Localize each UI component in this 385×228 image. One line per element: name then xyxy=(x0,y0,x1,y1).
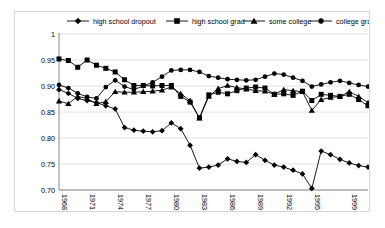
marker-triangle xyxy=(224,82,230,87)
legend: high school dropouthigh school gradsome … xyxy=(67,17,369,26)
marker-circle xyxy=(150,80,155,85)
marker-circle xyxy=(85,95,90,100)
marker-diamond xyxy=(178,126,184,132)
x-tick-label: 1977 xyxy=(144,194,153,210)
marker-square xyxy=(122,77,127,82)
series-high-school-grad xyxy=(57,56,370,120)
marker-circle xyxy=(197,70,202,75)
marker-circle xyxy=(141,84,146,89)
marker-diamond xyxy=(225,156,231,162)
marker-circle xyxy=(57,83,62,88)
marker-circle xyxy=(253,77,258,82)
marker-circle xyxy=(206,74,211,79)
marker-circle xyxy=(263,74,268,79)
marker-square xyxy=(174,18,180,24)
marker-circle xyxy=(178,68,183,73)
marker-circle xyxy=(75,91,80,96)
x-tick-label: 1992 xyxy=(285,194,294,210)
marker-square xyxy=(319,92,324,97)
legend-label: high school grad xyxy=(192,17,245,26)
y-tick-label: 1 xyxy=(51,30,55,39)
marker-circle xyxy=(94,96,99,101)
chart-container: high school dropouthigh school gradsome … xyxy=(14,11,370,212)
series-layer xyxy=(56,56,369,191)
marker-square xyxy=(85,58,90,63)
marker-circle xyxy=(318,18,323,23)
marker-diamond xyxy=(271,162,277,168)
marker-circle xyxy=(319,82,324,87)
marker-diamond xyxy=(187,142,193,148)
marker-circle xyxy=(132,87,137,92)
marker-diamond xyxy=(131,127,137,133)
marker-circle xyxy=(122,84,127,89)
y-tick-label: 0.90 xyxy=(41,82,55,91)
marker-square xyxy=(57,56,62,61)
marker-circle xyxy=(216,75,221,80)
grid-layer xyxy=(59,34,368,190)
x-tick-label: 1980 xyxy=(172,194,181,210)
marker-square xyxy=(291,93,296,98)
marker-triangle xyxy=(56,98,62,103)
marker-circle xyxy=(160,74,165,79)
marker-diamond xyxy=(365,164,369,170)
marker-square xyxy=(131,83,136,88)
marker-diamond xyxy=(318,148,324,154)
marker-square xyxy=(103,66,108,71)
marker-diamond xyxy=(346,160,352,166)
marker-diamond xyxy=(56,87,62,93)
marker-circle xyxy=(328,80,333,85)
marker-circle xyxy=(356,83,361,88)
marker-circle xyxy=(244,78,249,83)
marker-diamond xyxy=(206,164,212,170)
marker-diamond xyxy=(140,128,146,134)
marker-square xyxy=(113,69,118,74)
marker-circle xyxy=(338,78,343,83)
marker-diamond xyxy=(112,106,118,112)
marker-diamond xyxy=(281,164,287,170)
marker-circle xyxy=(235,77,240,82)
marker-diamond xyxy=(122,125,128,131)
marker-circle xyxy=(309,84,314,89)
legend-item-college-grad: college grad xyxy=(310,17,369,26)
marker-square xyxy=(309,98,314,103)
marker-diamond xyxy=(300,171,306,177)
marker-square xyxy=(281,91,286,96)
marker-diamond xyxy=(337,156,343,162)
x-tick-labels: 1968197119741977198019831986198919921995… xyxy=(60,194,359,210)
marker-diamond xyxy=(215,162,221,168)
marker-square xyxy=(225,91,230,96)
marker-circle xyxy=(347,81,352,86)
marker-circle xyxy=(103,85,108,90)
x-tick-label: 1974 xyxy=(116,194,125,210)
legend-label: college grad xyxy=(336,17,369,26)
marker-circle xyxy=(169,68,174,73)
x-tick-label: 1968 xyxy=(60,194,69,210)
y-tick-label: 0.75 xyxy=(41,160,55,169)
marker-circle xyxy=(188,68,193,73)
marker-circle xyxy=(366,84,369,89)
marker-circle xyxy=(66,86,71,91)
marker-triangle xyxy=(346,89,352,94)
x-tick-label: 1989 xyxy=(256,194,265,210)
marker-circle xyxy=(272,71,277,76)
x-tick-label: 1995 xyxy=(313,194,322,210)
legend-label: high school dropout xyxy=(93,17,156,26)
series-some-college xyxy=(56,82,369,120)
legend-item-high-school-dropout: high school dropout xyxy=(67,17,156,26)
marker-diamond xyxy=(65,90,71,96)
marker-circle xyxy=(300,78,305,83)
marker-diamond xyxy=(290,167,296,173)
marker-diamond xyxy=(234,159,240,165)
legend-item-some-college: some college xyxy=(243,17,311,26)
marker-circle xyxy=(225,77,230,82)
y-tick-label: 0.95 xyxy=(41,56,55,65)
marker-triangle xyxy=(356,93,362,98)
y-tick-label: 0.70 xyxy=(41,186,55,195)
legend-item-high-school-grad: high school grad xyxy=(166,17,245,26)
marker-circle xyxy=(281,72,286,77)
x-tick-label: 1999 xyxy=(350,194,359,210)
marker-diamond xyxy=(328,152,334,158)
x-tick-label: 1986 xyxy=(228,194,237,210)
legend-label: some college xyxy=(269,17,311,26)
x-tick-label: 1983 xyxy=(200,194,209,210)
